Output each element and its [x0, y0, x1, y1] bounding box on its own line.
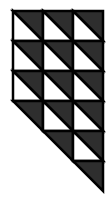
triangle-grid-figure: [0, 0, 109, 208]
dark-triangle: [73, 161, 103, 191]
dark-triangle: [13, 101, 43, 131]
dark-triangle: [43, 131, 73, 161]
